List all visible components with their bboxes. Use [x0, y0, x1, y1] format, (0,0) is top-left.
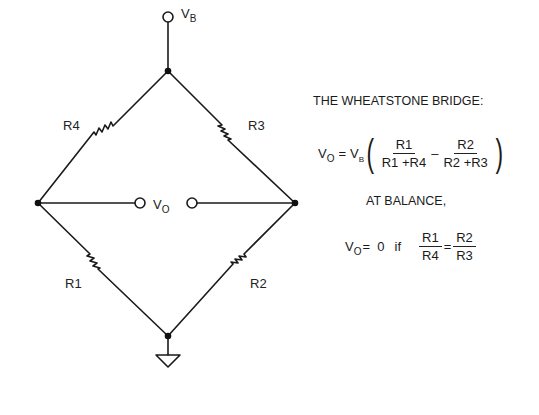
arm-r3 [168, 71, 295, 203]
balance-equation: VO = 0 if R1 R4 = R2 R3 [345, 230, 478, 263]
r2-label: R2 [250, 276, 267, 291]
equals-zero: = 0 [362, 239, 384, 254]
fraction-r2: R2 R2 +R3 [440, 137, 490, 170]
arm-r1 [38, 203, 168, 336]
open-paren: ( [367, 134, 375, 172]
arm-r2 [168, 203, 295, 336]
fraction-numerator: R1 [393, 137, 416, 154]
fraction-denominator: R3 [453, 247, 476, 263]
vb-terminal [163, 12, 173, 22]
fraction-numerator: R2 [454, 137, 477, 154]
bridge-circuit [0, 0, 539, 415]
vo-terminal-right [187, 198, 197, 208]
equals-sign: = [338, 146, 346, 161]
r3-label: R3 [248, 118, 265, 133]
vo-symbol: VO [345, 239, 361, 254]
r4-label: R4 [63, 118, 80, 133]
bridge-equation: VO = VB ( R1 R1 +R4 – R2 R2 +R3 ) [318, 134, 506, 172]
fraction-numerator: R2 [453, 230, 476, 247]
fraction-r2-r3: R2 R3 [453, 230, 476, 263]
if-text: if [395, 239, 402, 254]
minus-sign: – [431, 146, 438, 161]
vo-symbol: VO [318, 146, 334, 161]
balance-heading: AT BALANCE, [366, 194, 446, 208]
node-top [165, 68, 172, 75]
r1-label: R1 [65, 276, 82, 291]
vo-terminal-left [135, 198, 145, 208]
node-bottom [165, 333, 172, 340]
fraction-numerator: R1 [419, 230, 442, 247]
node-left [35, 200, 42, 207]
node-right [292, 200, 299, 207]
fraction-denominator: R4 [419, 247, 442, 263]
diagram-title: THE WHEATSTONE BRIDGE: [313, 94, 483, 108]
fraction-r1: R1 R1 +R4 [379, 137, 429, 170]
fraction-r1-r4: R1 R4 [419, 230, 442, 263]
arm-r4 [38, 71, 168, 203]
vb-symbol: VB [350, 146, 364, 161]
close-paren: ) [495, 134, 503, 172]
fraction-denominator: R1 +R4 [379, 154, 429, 170]
vo-label: VO [153, 197, 169, 212]
fraction-denominator: R2 +R3 [440, 154, 490, 170]
equals-sign: = [444, 239, 452, 254]
ground-icon [156, 355, 180, 367]
vb-label: VB [181, 6, 196, 21]
